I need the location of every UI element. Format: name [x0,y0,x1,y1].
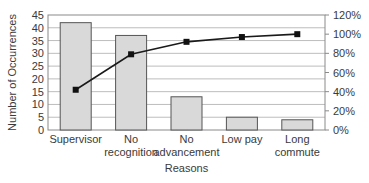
y-tick-label: 35 [32,35,44,47]
y2-tick-label: 120% [333,9,361,21]
line-marker [294,31,300,37]
bar [282,120,313,130]
line-marker [184,39,190,45]
bar [60,23,91,130]
y-tick-label: 15 [32,86,44,98]
x-tick-label: Supervisor [49,133,102,145]
chart-canvas: 0510152025303540450%20%40%60%80%100%120%… [0,0,369,183]
y2-tick-label: 20% [333,105,355,117]
x-tick-label: No [124,133,138,145]
y-axis-title: Number of Occurrences [6,14,18,131]
y2-tick-label: 80% [333,47,355,59]
y-tick-label: 0 [38,124,44,136]
y2-tick-label: 100% [333,28,361,40]
y2-tick-label: 0% [333,124,349,136]
y-tick-label: 5 [38,111,44,123]
line-marker [73,87,79,93]
x-tick-label: No [179,133,193,145]
x-tick-label: commute [275,146,320,158]
y-tick-label: 20 [32,73,44,85]
x-tick-label: Long [285,133,309,145]
bar [116,35,147,130]
y-tick-label: 45 [32,9,44,21]
y-tick-label: 25 [32,60,44,72]
y-tick-label: 30 [32,47,44,59]
x-tick-label: advancement [153,146,219,158]
y2-tick-label: 60% [333,67,355,79]
x-axis-title: Reasons [165,162,209,174]
line-marker [128,51,134,57]
x-tick-label: recognition [104,146,158,158]
x-tick-label: Low pay [221,133,262,145]
y-tick-label: 10 [32,98,44,110]
y2-tick-label: 40% [333,86,355,98]
pareto-chart: 0510152025303540450%20%40%60%80%100%120%… [0,0,369,183]
line-marker [239,34,245,40]
bar [226,117,257,130]
bar [171,97,202,130]
y-tick-label: 40 [32,22,44,34]
